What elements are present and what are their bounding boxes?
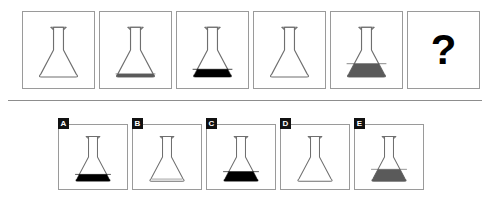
sequence-cell-4[interactable] (253, 11, 326, 89)
flask-icon (59, 125, 127, 189)
option-letter-badge-b: B (132, 118, 143, 129)
option-letter-badge-e: E (354, 118, 365, 129)
flask-icon (177, 12, 248, 88)
puzzle-canvas: ? A B C D E (0, 0, 488, 202)
option-box-b[interactable] (132, 124, 202, 190)
sequence-cell-5[interactable] (330, 11, 403, 89)
option-box-c[interactable] (206, 124, 276, 190)
option-box-a[interactable] (58, 124, 128, 190)
option-letter-badge-c: C (206, 118, 217, 129)
flask-icon (23, 12, 94, 88)
section-divider (8, 100, 482, 101)
flask-icon (331, 12, 402, 88)
option-d[interactable]: D (280, 118, 350, 190)
sequence-cell-2[interactable] (99, 11, 172, 89)
sequence-cell-1[interactable] (22, 11, 95, 89)
option-e[interactable]: E (354, 118, 424, 190)
flask-icon (254, 12, 325, 88)
options-row: A B C D E (58, 118, 424, 190)
option-letter-badge-a: A (58, 118, 69, 129)
option-letter-badge-d: D (280, 118, 291, 129)
option-b[interactable]: B (132, 118, 202, 190)
sequence-cell-3[interactable] (176, 11, 249, 89)
option-box-d[interactable] (280, 124, 350, 190)
option-c[interactable]: C (206, 118, 276, 190)
flask-icon (355, 125, 423, 189)
option-box-e[interactable] (354, 124, 424, 190)
flask-icon (133, 125, 201, 189)
question-mark-cell[interactable]: ? (407, 11, 480, 89)
flask-icon (281, 125, 349, 189)
flask-icon (207, 125, 275, 189)
sequence-row: ? (22, 11, 480, 89)
option-a[interactable]: A (58, 118, 128, 190)
flask-icon (100, 12, 171, 88)
